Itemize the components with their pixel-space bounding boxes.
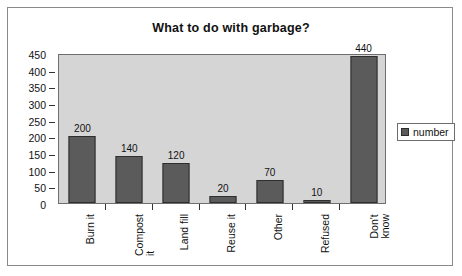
x-axis-category-label-line: know (380, 214, 391, 239)
y-axis-tick-label: 300 (28, 99, 46, 111)
x-axis-tick-mark (292, 204, 293, 210)
x-axis-category-label: Other (273, 214, 284, 240)
y-axis-tick-mark (49, 88, 55, 89)
bar (163, 163, 190, 203)
y-axis-tick-label: 250 (28, 116, 46, 128)
y-axis-tick-label: 150 (28, 149, 46, 161)
x-axis-tick-mark (199, 204, 200, 210)
x-axis-category-label: Refused (320, 214, 331, 253)
bar-value-label: 120 (168, 150, 185, 161)
y-axis-tick-mark (49, 155, 55, 156)
bar (350, 56, 377, 203)
x-axis-tick-mark (152, 204, 153, 210)
bar (256, 180, 283, 203)
bar-value-label: 440 (355, 43, 372, 54)
bar (116, 156, 143, 203)
bar-value-label: 70 (264, 167, 275, 178)
x-axis-category-label-line: Burn it (84, 214, 96, 244)
x-axis-category-label: Compostit (134, 214, 156, 256)
y-axis-tick-mark (49, 188, 55, 189)
y-axis-tick-label: 200 (28, 132, 46, 144)
chart-frame: What to do with garbage? 050100150200250… (7, 7, 453, 266)
y-axis-tick-mark (49, 122, 55, 123)
bar (69, 136, 96, 203)
bar (303, 200, 330, 203)
y-axis-tick-mark (49, 72, 55, 73)
y-axis: 050100150200250300350400450 (8, 54, 58, 205)
x-axis-tick-mark (339, 204, 340, 210)
y-axis-tick-label: 450 (28, 49, 46, 61)
x-axis-category-label-line: it (145, 214, 156, 256)
x-axis-category-label: Reuse it (226, 214, 237, 253)
y-axis-tick-mark (49, 172, 55, 173)
legend-label-number: number (413, 126, 449, 138)
bars-layer: 200140120207010440 (59, 55, 385, 203)
bar-slot: 440 (340, 55, 387, 203)
x-axis-category-label-line: Reuse it (225, 214, 237, 253)
bar-value-label: 200 (74, 123, 91, 134)
bar (209, 196, 236, 203)
x-axis-category-label-line: Compost (133, 214, 145, 256)
legend-swatch-number (401, 128, 409, 136)
bar-slot: 200 (59, 55, 106, 203)
x-axis-category-label: Land fill (179, 214, 190, 250)
x-axis-tick-mark (105, 204, 106, 210)
bar-slot: 10 (293, 55, 340, 203)
bar-slot: 70 (246, 55, 293, 203)
y-axis-tick-label: 0 (40, 199, 46, 211)
y-axis-tick-mark (49, 138, 55, 139)
bar-value-label: 20 (217, 183, 228, 194)
x-axis: Burn itCompostitLand fillReuse itOtherRe… (58, 204, 386, 274)
x-axis-category-label-line: Don't (368, 214, 380, 238)
bar-value-label: 10 (311, 187, 322, 198)
x-axis-category-label-line: Refused (319, 214, 331, 253)
y-axis-tick-label: 350 (28, 82, 46, 94)
x-axis-category-label: Burn it (85, 214, 96, 244)
x-axis-category-label-line: Land fill (178, 214, 190, 250)
bar-slot: 20 (200, 55, 247, 203)
y-axis-tick-label: 50 (34, 182, 46, 194)
x-axis-category-label: Don'tknow (369, 214, 391, 239)
bar-value-label: 140 (121, 143, 138, 154)
y-axis-tick-label: 400 (28, 66, 46, 78)
x-axis-tick-mark (245, 204, 246, 210)
chart-title: What to do with garbage? (8, 21, 454, 35)
x-axis-category-label-line: Other (272, 214, 284, 240)
y-axis-tick-mark (49, 105, 55, 106)
bar-slot: 140 (106, 55, 153, 203)
plot-area: 200140120207010440 (58, 54, 386, 204)
chart-legend: number (397, 123, 455, 141)
y-axis-tick-label: 100 (28, 166, 46, 178)
bar-slot: 120 (153, 55, 200, 203)
